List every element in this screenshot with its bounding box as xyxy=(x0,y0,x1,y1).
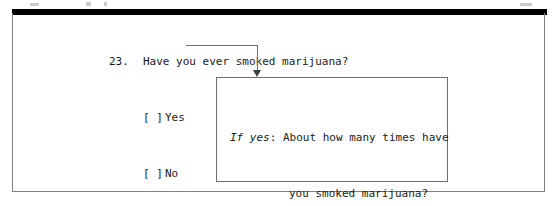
followup-prompt-line-2: you smoked marijuana? xyxy=(230,187,449,201)
question-option-yes-label: Yes xyxy=(165,111,185,124)
followup-condition-separator: : xyxy=(270,131,277,144)
question-heading: 23.Have you ever smoked marijuana? xyxy=(109,55,348,69)
question-number: 23. xyxy=(109,55,143,69)
scan-artifact xyxy=(86,2,91,6)
followup-condition-label: If yes xyxy=(230,131,270,144)
followup-question-box: If yes: About how many times have you sm… xyxy=(216,77,448,182)
followup-prompt-line-1: If yes: About how many times have xyxy=(230,131,449,145)
survey-question-figure: 23.Have you ever smoked marijuana? [ ]Ye… xyxy=(0,0,559,206)
arrow-down-icon xyxy=(253,70,261,77)
question-option-no-label: No xyxy=(165,167,178,180)
scan-artifact xyxy=(104,2,107,6)
followup-prompt-text-1: About how many times have xyxy=(283,131,449,144)
checkbox-yes[interactable]: [ ] xyxy=(143,111,165,125)
connector-line-vertical xyxy=(257,45,258,72)
scan-artifact xyxy=(30,3,39,6)
checkbox-no[interactable]: [ ] xyxy=(143,167,165,181)
connector-line-horizontal xyxy=(186,45,258,46)
followup-prompt-text-2: you smoked marijuana? xyxy=(289,187,428,200)
question-text: Have you ever smoked marijuana? xyxy=(143,55,348,68)
scan-artifact xyxy=(520,3,532,6)
followup-content: If yes: About how many times have you sm… xyxy=(230,89,449,206)
